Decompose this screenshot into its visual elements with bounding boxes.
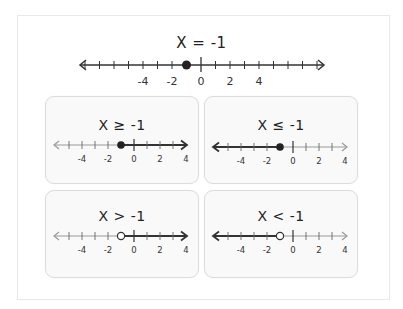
svg-text:-4: -4 — [237, 245, 245, 255]
number-line: -4 -2 0 2 4 — [209, 228, 355, 262]
svg-text:-2: -2 — [104, 245, 112, 255]
svg-text:-2: -2 — [167, 75, 178, 88]
number-line: -4 -2 0 2 4 — [50, 228, 196, 262]
svg-text:4: 4 — [183, 154, 188, 164]
svg-text:0: 0 — [198, 75, 205, 88]
svg-text:4: 4 — [256, 75, 263, 88]
svg-text:2: 2 — [157, 245, 162, 255]
card-less-equal: X ≤ -1 -4 -2 0 2 4 — [204, 96, 358, 184]
closed-point-marker — [182, 61, 191, 70]
svg-text:2: 2 — [316, 245, 321, 255]
card-greater-equal: X ≥ -1 -4 -2 0 2 4 — [45, 96, 199, 184]
svg-text:0: 0 — [131, 245, 136, 255]
svg-text:-4: -4 — [237, 156, 245, 166]
open-point-marker — [117, 232, 124, 239]
svg-text:0: 0 — [131, 154, 136, 164]
closed-point-marker — [117, 141, 125, 149]
main-number-line: -4 -2 0 2 4 — [76, 52, 328, 92]
number-line: -4 -2 0 2 4 — [50, 137, 196, 171]
card-less-than: X < -1 -4 -2 0 2 4 — [204, 190, 358, 278]
svg-text:-2: -2 — [104, 154, 112, 164]
svg-text:-2: -2 — [263, 245, 271, 255]
card-title: X < -1 — [205, 208, 357, 224]
svg-text:4: 4 — [342, 245, 347, 255]
card-title: X > -1 — [46, 208, 198, 224]
svg-text:4: 4 — [183, 245, 188, 255]
svg-text:2: 2 — [316, 156, 321, 166]
card-title: X ≥ -1 — [46, 117, 198, 133]
main-title: X = -1 — [0, 34, 403, 52]
number-line: -4 -2 0 2 4 — [209, 139, 355, 173]
svg-text:0: 0 — [290, 245, 295, 255]
svg-text:-2: -2 — [263, 156, 271, 166]
open-point-marker — [276, 232, 283, 239]
svg-text:-4: -4 — [78, 154, 86, 164]
closed-point-marker — [276, 143, 284, 151]
svg-text:4: 4 — [342, 156, 347, 166]
svg-text:2: 2 — [227, 75, 234, 88]
card-greater-than: X > -1 -4 -2 0 2 4 — [45, 190, 199, 278]
svg-text:2: 2 — [157, 154, 162, 164]
svg-text:-4: -4 — [78, 245, 86, 255]
card-title: X ≤ -1 — [205, 117, 357, 133]
svg-text:-4: -4 — [138, 75, 149, 88]
svg-text:0: 0 — [290, 156, 295, 166]
